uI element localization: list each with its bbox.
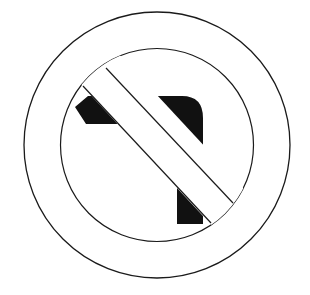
no-left-turn-sign: No left turn	[0, 0, 310, 295]
no-left-turn-icon	[0, 0, 310, 295]
